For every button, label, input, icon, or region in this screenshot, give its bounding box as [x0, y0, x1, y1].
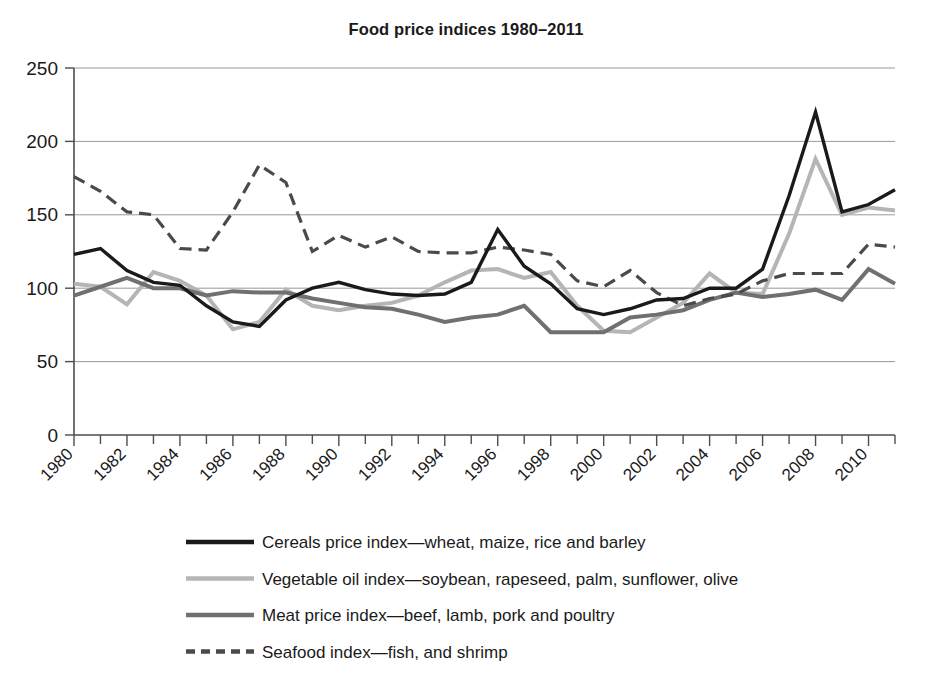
- food-price-indices-line-chart: 050100150200250 198019821984198619881990…: [0, 0, 932, 690]
- chart-legend: Cereals price index—wheat, maize, rice a…: [186, 533, 738, 662]
- x-tick-label-1996: 1996: [460, 444, 500, 484]
- y-tick-label-100: 100: [26, 278, 58, 299]
- x-tick-label-2000: 2000: [566, 444, 606, 484]
- x-axis-tick-labels: 1980198219841986198819901992199419961998…: [37, 444, 872, 484]
- x-tick-label-2002: 2002: [619, 444, 659, 484]
- legend-label-2: Meat price index—beef, lamb, pork and po…: [262, 606, 615, 625]
- chart-page: Food price indices 1980–2011 05010015020…: [0, 0, 932, 690]
- legend-label-1: Vegetable oil index—soybean, rapeseed, p…: [262, 570, 738, 589]
- x-tick-label-2010: 2010: [831, 444, 871, 484]
- x-tick-label-1986: 1986: [196, 444, 236, 484]
- y-tick-label-200: 200: [26, 131, 58, 152]
- x-tick-label-1994: 1994: [407, 444, 447, 484]
- x-tick-label-1980: 1980: [37, 444, 77, 484]
- legend-item-3[interactable]: Seafood index—fish, and shrimp: [186, 643, 508, 662]
- y-tick-label-150: 150: [26, 204, 58, 225]
- y-tick-label-50: 50: [37, 351, 58, 372]
- x-tick-label-1990: 1990: [301, 444, 341, 484]
- data-series: [74, 112, 895, 332]
- x-tick-label-2006: 2006: [725, 444, 765, 484]
- y-tick-label-250: 250: [26, 58, 58, 79]
- legend-label-0: Cereals price index—wheat, maize, rice a…: [262, 533, 646, 552]
- legend-label-3: Seafood index—fish, and shrimp: [262, 643, 508, 662]
- y-tick-label-0: 0: [47, 425, 58, 446]
- x-tick-label-2004: 2004: [672, 444, 712, 484]
- x-tick-label-1982: 1982: [90, 444, 130, 484]
- x-tick-label-1998: 1998: [513, 444, 553, 484]
- legend-item-2[interactable]: Meat price index—beef, lamb, pork and po…: [186, 606, 615, 625]
- x-tick-label-2008: 2008: [778, 444, 818, 484]
- series-line-seafood: [74, 165, 895, 306]
- axes: [65, 68, 895, 446]
- y-axis-tick-labels: 050100150200250: [26, 58, 58, 446]
- x-tick-label-1984: 1984: [143, 444, 183, 484]
- legend-item-0[interactable]: Cereals price index—wheat, maize, rice a…: [186, 533, 646, 552]
- legend-item-1[interactable]: Vegetable oil index—soybean, rapeseed, p…: [186, 570, 738, 589]
- x-tick-label-1988: 1988: [249, 444, 289, 484]
- x-tick-label-1992: 1992: [354, 444, 394, 484]
